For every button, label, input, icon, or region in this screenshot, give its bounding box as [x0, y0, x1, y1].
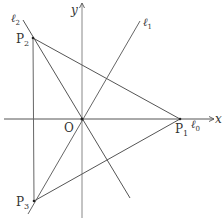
- point-p2: [32, 37, 35, 40]
- point-p1: [179, 118, 182, 121]
- l1-label: ℓ1: [143, 16, 152, 31]
- line-l1: [28, 21, 140, 214]
- segment-p2-p1: [33, 38, 180, 119]
- segment-p3-p1: [34, 119, 180, 201]
- point-origin: [81, 118, 84, 121]
- origin-label: O: [64, 121, 74, 135]
- y-axis-label: y: [70, 3, 78, 17]
- line-l2: [23, 20, 130, 198]
- x-axis-label: x: [215, 112, 222, 126]
- l2-label: ℓ2: [11, 12, 20, 27]
- point-p3: [33, 200, 36, 203]
- p3-label: P3: [16, 195, 29, 211]
- p1-label: P1: [175, 122, 188, 138]
- p2-label: P2: [16, 32, 29, 48]
- segment-p2-p3: [33, 38, 34, 201]
- geometry-diagram: x y O P1 P2 P3 ℓ0 ℓ1 ℓ2: [0, 0, 224, 218]
- l0-label: ℓ0: [191, 118, 200, 133]
